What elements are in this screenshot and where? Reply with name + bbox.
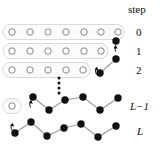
open-site-node [45, 67, 51, 73]
chain-bead [61, 96, 68, 103]
open-site-node [81, 29, 87, 35]
ellipsis-dot [58, 92, 61, 95]
growth-arrow-head [114, 45, 118, 48]
chain-bonds [33, 97, 118, 110]
open-site-node [27, 29, 33, 35]
open-site-node [45, 29, 51, 35]
chain-bead [45, 106, 52, 113]
open-site-node [9, 103, 15, 109]
chain-bead [77, 120, 84, 127]
chain-bead [112, 122, 119, 129]
open-site-node [81, 48, 87, 54]
chain-bead [96, 106, 103, 113]
step-label-L: L [137, 126, 143, 137]
open-site-node [9, 48, 15, 54]
chain-bead [43, 132, 50, 139]
growth-arrow-head [95, 67, 99, 71]
ellipsis-dot [58, 87, 61, 90]
chain-growth-diagram: step 0 1 2 L−1 L [0, 0, 160, 151]
chain-bead [79, 93, 86, 100]
chain-bead [27, 118, 34, 125]
ellipsis-dot [58, 82, 61, 85]
open-site-node [80, 67, 86, 73]
open-site-node [27, 67, 33, 73]
open-site-node [9, 67, 15, 73]
open-site-box-row-1 [3, 44, 108, 59]
chain-bead [11, 129, 18, 136]
chain-bead [114, 94, 121, 101]
step-column-header: step [128, 4, 146, 15]
chain-bead [96, 69, 103, 76]
step-label-1: 1 [136, 46, 142, 57]
open-site-node [63, 48, 69, 54]
step-label-0: 0 [136, 27, 142, 38]
open-site-node [63, 67, 69, 73]
open-site-node [9, 29, 15, 35]
chain-bead [29, 93, 36, 100]
open-site-node [98, 48, 104, 54]
chain-bead [112, 37, 119, 44]
ellipsis-dot [58, 77, 61, 80]
vertical-ellipsis [58, 77, 61, 95]
step-label-L-minus-1: L−1 [130, 101, 149, 112]
row-step-L [10, 118, 120, 140]
open-site-node [115, 29, 121, 35]
chain-bead [60, 124, 67, 131]
chain-bead [112, 55, 119, 62]
open-site-node [27, 48, 33, 54]
chain-bead [94, 133, 101, 140]
open-site-node [45, 48, 51, 54]
step-label-2: 2 [136, 65, 142, 76]
row-step-L-minus-1 [3, 93, 122, 113]
open-site-node [63, 29, 69, 35]
open-site-node [98, 29, 104, 35]
row-step-1 [3, 37, 120, 58]
row-step-0 [3, 25, 124, 40]
